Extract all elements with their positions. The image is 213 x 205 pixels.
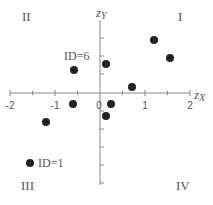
tick-label: -2 — [6, 100, 15, 111]
x-tick-labels: -2 -1 0 1 2 — [6, 100, 194, 111]
data-point — [150, 36, 158, 44]
point-annotation-id6: ID=6 — [64, 49, 89, 63]
data-point — [42, 118, 50, 126]
data-point — [102, 112, 110, 120]
point-annotation-id1: ID=1 — [38, 156, 63, 170]
tick-label: 1 — [142, 100, 148, 111]
quadrant-label-iii: III — [21, 178, 34, 193]
data-point — [166, 54, 174, 62]
data-point — [102, 60, 110, 68]
data-point — [70, 66, 78, 74]
data-point — [107, 100, 115, 108]
tick-label: 0 — [96, 100, 102, 111]
tick-label: -1 — [51, 100, 60, 111]
x-axis-label: zX — [193, 87, 206, 103]
quadrant-label-i: I — [178, 9, 182, 24]
scatter-chart: -2 -1 0 1 2 zY zX II I III IV ID=6 ID=1 — [0, 0, 213, 205]
data-point — [128, 83, 136, 91]
data-point — [69, 100, 77, 108]
quadrant-label-iv: IV — [176, 178, 190, 193]
data-point — [26, 159, 34, 167]
y-axis-label: zY — [95, 5, 108, 21]
quadrant-label-ii: II — [22, 9, 31, 24]
tick-label: 2 — [187, 100, 193, 111]
